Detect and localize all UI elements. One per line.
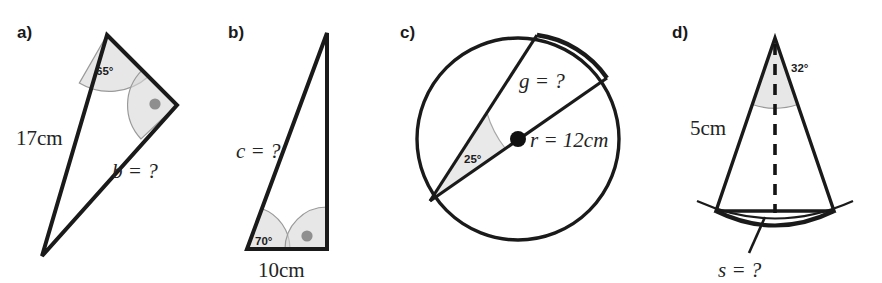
- panel-a-side-length-label: 17cm: [16, 126, 63, 150]
- panel-a-angle-dot-marker: [149, 98, 160, 109]
- panel-d-angle-value-label: 32°: [791, 62, 809, 74]
- panel-b: b) c = ? 10cm 70°: [228, 23, 327, 282]
- panel-b-angle-marked-wedge: [285, 207, 327, 249]
- panel-c-angle-value-label: 25°: [464, 153, 482, 165]
- panel-c-label: c): [400, 23, 415, 42]
- panel-a-label: a): [17, 23, 32, 42]
- panel-c-chord: [430, 35, 537, 201]
- panel-d-arc-label: s = ?: [718, 258, 762, 282]
- panel-d-radius-label: 5cm: [690, 116, 726, 140]
- panel-b-angle-dot-marker: [301, 230, 312, 241]
- panel-c-radius-label: r = 12cm: [530, 128, 608, 152]
- panel-c-arc-label: g = ?: [519, 69, 565, 93]
- panel-b-angle-value-label: 70°: [255, 235, 273, 247]
- panel-a-unknown-side-label: b = ?: [112, 159, 158, 183]
- panel-b-label: b): [228, 23, 244, 42]
- panel-c-center-dot: [510, 131, 526, 147]
- panel-d: d) 5cm 32° s = ?: [672, 23, 853, 282]
- panel-c: c) g = ? r = 12cm 25°: [400, 23, 619, 240]
- panel-b-unknown-side-label: c = ?: [236, 139, 281, 163]
- panel-a: a) 17cm b = ? 65°: [16, 23, 177, 256]
- panel-d-label: d): [672, 23, 688, 42]
- panel-b-side-length-label: 10cm: [258, 258, 305, 282]
- geometry-figure-canvas: a) 17cm b = ? 65° b) c = ? 10cm 70°: [0, 0, 882, 283]
- geometry-figure: a) 17cm b = ? 65° b) c = ? 10cm 70°: [0, 0, 882, 283]
- panel-a-angle-value-label: 65°: [96, 65, 114, 77]
